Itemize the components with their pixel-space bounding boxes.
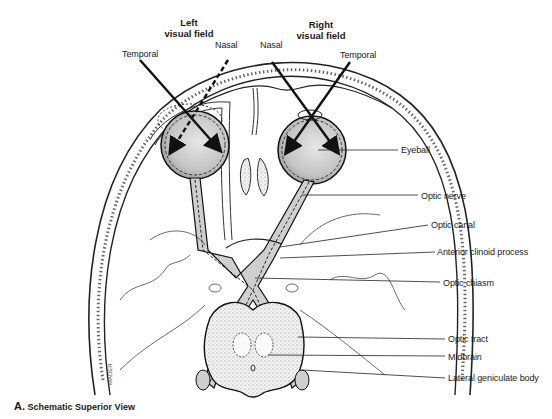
right-lgb <box>295 370 309 390</box>
label-optic-chiasm: Optic chiasm <box>443 278 494 288</box>
right-field-line2: visual field <box>294 30 348 41</box>
left-nasal-label: Nasal <box>215 40 238 50</box>
nasal-septum <box>240 88 268 196</box>
figure-caption: A. Schematic Superior View <box>14 400 135 412</box>
label-eyeball: Eyeball <box>401 145 430 155</box>
label-anterior-clinoid-process: Anterior clinoid process <box>437 247 528 257</box>
midbrain <box>204 302 304 397</box>
right-temporal-label: Temporal <box>340 50 376 60</box>
label-optic-nerve: Optic nerve <box>421 191 466 201</box>
left-lgb <box>196 370 210 390</box>
label-midbrain: Midbrain <box>448 352 482 362</box>
artist-signature: MADER <box>107 363 113 385</box>
left-temporal-label: Temporal <box>122 49 158 59</box>
left-visual-field-header: Left visual field <box>162 17 216 39</box>
caption-letter: A. <box>14 400 25 412</box>
right-eyeball <box>278 110 346 184</box>
visual-pathway-diagram: MADER Left visual field Right visual fie… <box>0 0 552 419</box>
label-optic-tract: Optic tract <box>448 334 488 344</box>
label-lateral-geniculate-body: Lateral geniculate body <box>448 373 539 383</box>
caption-text: Schematic Superior View <box>28 402 135 412</box>
left-field-line2: visual field <box>162 28 216 39</box>
right-field-line1: Right <box>294 19 348 30</box>
right-nasal-label: Nasal <box>260 40 283 50</box>
right-visual-field-header: Right visual field <box>294 19 348 41</box>
left-field-line1: Left <box>162 17 216 28</box>
label-optic-canal: Optic canal <box>431 220 475 230</box>
